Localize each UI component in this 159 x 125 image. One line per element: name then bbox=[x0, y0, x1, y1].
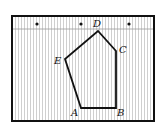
header-dot bbox=[127, 22, 130, 25]
header-dot bbox=[35, 22, 38, 25]
vertex-label-d: D bbox=[92, 18, 101, 29]
header-dot bbox=[79, 22, 82, 25]
grid-background bbox=[12, 16, 154, 121]
vertex-label-e: E bbox=[53, 55, 62, 66]
vertex-label-c: C bbox=[119, 44, 127, 55]
vertex-label-b: B bbox=[116, 107, 124, 118]
pentagon-diagram: A B C D E bbox=[0, 0, 159, 125]
vertex-label-a: A bbox=[70, 107, 78, 118]
